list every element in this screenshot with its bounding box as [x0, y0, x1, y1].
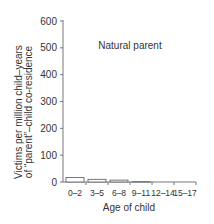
x-tick-label: 12–14 — [151, 188, 175, 198]
bar — [110, 180, 128, 182]
svg-text:of “parent”–child co-residence: of “parent”–child co-residence — [23, 45, 34, 178]
bar-chart: Victims per million child–years of “pare… — [0, 0, 214, 224]
y-tick-label: 0 — [51, 177, 57, 188]
bars — [66, 177, 150, 182]
x-tick-label: 9–11 — [132, 188, 151, 198]
x-tick-label: 0–2 — [68, 188, 82, 198]
x-tick-label: 6–8 — [112, 188, 126, 198]
bar — [66, 177, 84, 182]
y-tick-label: 600 — [40, 16, 57, 27]
y-axis-label: Victims per million child–years of “pare… — [13, 45, 34, 179]
y-tick-label: 500 — [40, 42, 57, 53]
x-axis-label: Age of child — [103, 202, 155, 213]
y-tick-label: 400 — [40, 69, 57, 80]
x-ticks: 0–23–56–89–1112–1415–17 — [68, 182, 197, 198]
x-tick-label: 3–5 — [90, 188, 104, 198]
y-ticks: 0100200300400500600 — [40, 16, 63, 188]
x-tick-label: 15–17 — [173, 188, 197, 198]
y-tick-label: 300 — [40, 96, 57, 107]
y-tick-label: 100 — [40, 150, 57, 161]
y-tick-label: 200 — [40, 123, 57, 134]
bar — [88, 179, 106, 182]
chart-annotation: Natural parent — [98, 40, 162, 51]
